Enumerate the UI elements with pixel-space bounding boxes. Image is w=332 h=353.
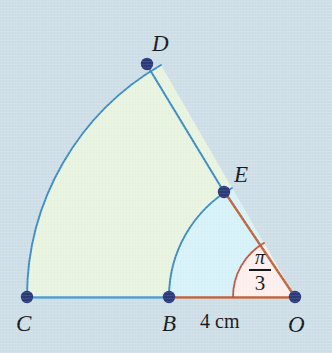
length-label-4cm: 4 cm <box>200 311 239 331</box>
vertex-dot-D <box>141 58 153 70</box>
vertex-label-D: D <box>152 32 169 55</box>
angle-label-pi-over-3: π 3 <box>243 247 277 294</box>
angle-denominator: 3 <box>243 273 277 294</box>
vertex-label-C: C <box>16 312 31 335</box>
vertex-dot-E <box>218 186 230 198</box>
geometry-figure: D E C B O 4 cm π 3 <box>0 0 332 353</box>
vertex-label-E: E <box>234 163 248 186</box>
vertex-label-B: B <box>162 312 176 335</box>
vertex-dot-B <box>163 291 175 303</box>
vertex-dot-C <box>21 291 33 303</box>
vertex-dot-O <box>289 291 301 303</box>
vertex-label-O: O <box>288 313 305 336</box>
angle-numerator: π <box>243 247 277 268</box>
